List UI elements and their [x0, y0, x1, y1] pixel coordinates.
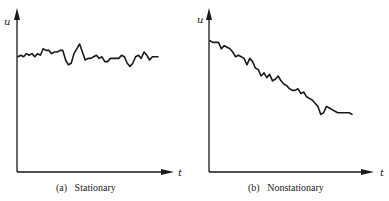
x-axis-arrow-a — [161, 169, 174, 175]
series-line-stationary — [18, 44, 158, 66]
y-axis-label-a: u — [4, 16, 10, 27]
panel-nonstationary: u t (b) Nonstationary — [197, 8, 385, 194]
y-axis-arrow-b — [206, 8, 212, 20]
caption-tag-b: (b) — [248, 182, 260, 194]
x-axis-arrow-b — [361, 169, 374, 175]
x-axis-label-a: t — [178, 167, 183, 178]
caption-text-b: Nonstationary — [267, 182, 324, 193]
caption-b: (b) Nonstationary — [248, 182, 324, 194]
caption-text-a: Stationary — [75, 182, 116, 193]
x-axis-label-b: t — [380, 167, 385, 178]
figure-canvas: u t (a) Stationary u t (b) Nonstationary — [0, 0, 389, 201]
y-axis-label-b: u — [197, 14, 203, 25]
panel-stationary: u t (a) Stationary — [4, 8, 183, 194]
caption-tag-a: (a) — [56, 182, 67, 194]
y-axis-arrow-a — [14, 8, 20, 20]
series-line-nonstationary — [210, 41, 352, 115]
caption-a: (a) Stationary — [56, 182, 116, 194]
